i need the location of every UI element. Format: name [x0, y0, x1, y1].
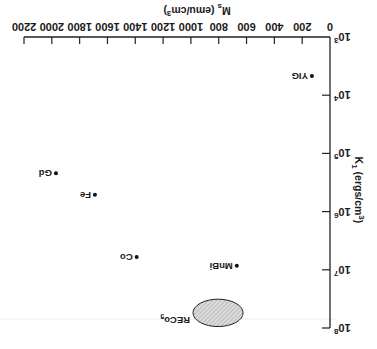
axes	[24, 37, 330, 328]
y-tick-label: 105	[333, 147, 350, 161]
regions: RECo5	[160, 299, 243, 326]
x-tick-label: 1400	[123, 21, 147, 33]
point-gd	[54, 171, 58, 175]
x-tick-label: 0	[327, 21, 333, 33]
region-reco5	[193, 299, 243, 326]
x-tick-label: 2200	[12, 21, 36, 33]
point-label: Fe	[80, 190, 91, 201]
x-tick-label: 1600	[95, 21, 119, 33]
x-tick-label: 400	[265, 21, 283, 33]
y-tick-label: 108	[333, 322, 350, 336]
x-tick-label: 1200	[151, 21, 175, 33]
axis-ticks: 0200400600800100012001400160018002000220…	[12, 21, 351, 336]
point-mnbi	[235, 264, 239, 268]
point-co	[135, 255, 139, 259]
point-label: YIG	[292, 71, 308, 82]
scatter-plot: 0200400600800100012001400160018002000220…	[0, 0, 377, 349]
y-tick-label: 103	[333, 31, 350, 45]
x-tick-label: 800	[210, 21, 228, 33]
y-tick-label: 106	[333, 206, 350, 220]
x-tick-label: 600	[237, 21, 255, 33]
point-yig	[310, 74, 314, 78]
x-tick-label: 200	[293, 21, 311, 33]
y-tick-label: 107	[333, 264, 350, 278]
y-tick-label: 104	[333, 89, 350, 103]
x-axis-title: Ms (emu/cm3)	[163, 2, 230, 18]
chart: 0200400600800100012001400160018002000220…	[0, 0, 377, 349]
data-points: YIGGdFeCoMnBi	[39, 71, 314, 272]
point-label: Co	[120, 252, 133, 263]
x-tick-label: 2000	[40, 21, 64, 33]
x-tick-label: 1000	[179, 21, 203, 33]
y-axis-title: K1 (ergs/cm3)	[350, 157, 366, 224]
point-label: Gd	[39, 168, 52, 179]
region-label: RECo5	[160, 313, 190, 326]
x-tick-label: 1800	[67, 21, 91, 33]
point-label: MnBi	[210, 261, 233, 272]
point-fe	[93, 193, 97, 197]
